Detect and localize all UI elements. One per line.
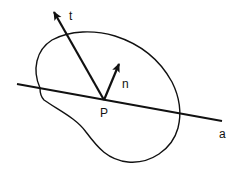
label-a: a xyxy=(219,127,226,141)
label-n: n xyxy=(122,77,129,91)
label-P: P xyxy=(100,106,108,120)
label-t: t xyxy=(69,9,73,23)
normal-vector-arrow xyxy=(104,64,119,100)
diagram-canvas: t n P a xyxy=(0,0,238,171)
tangent-vector-arrow xyxy=(54,12,104,100)
closed-region-curve xyxy=(36,32,180,162)
